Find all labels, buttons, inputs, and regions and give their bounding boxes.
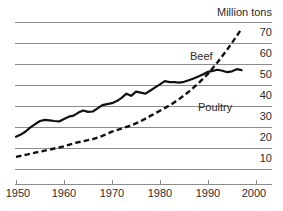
x-axis-tickmarks: [16, 180, 256, 184]
chart-container: Million tons 70 60 50 40 30 20 10 Beef P…: [0, 0, 283, 211]
x-tick-label-1960: 1960: [52, 187, 76, 199]
y-tick-label-70: 70: [260, 26, 272, 38]
meat-production-line-chart: Million tons 70 60 50 40 30 20 10 Beef P…: [0, 0, 283, 211]
unit-label: Million tons: [217, 6, 273, 18]
poultry-series-line: [16, 29, 242, 157]
y-tick-label-50: 50: [260, 68, 272, 80]
poultry-series-annotation: Poultry: [198, 101, 233, 113]
y-tick-label-60: 60: [260, 47, 272, 59]
beef-series-annotation: Beef: [190, 50, 214, 62]
x-tick-label-1970: 1970: [100, 187, 124, 199]
y-tick-label-20: 20: [260, 131, 272, 143]
y-axis-tick-labels: 70 60 50 40 30 20 10: [260, 26, 272, 164]
x-tick-label-1950: 1950: [6, 187, 30, 199]
y-tick-label-40: 40: [260, 89, 272, 101]
x-tick-label-1980: 1980: [148, 187, 172, 199]
series-group: [16, 29, 242, 157]
x-tick-label-1990: 1990: [196, 187, 220, 199]
x-tick-label-2000: 2000: [242, 187, 266, 199]
gridlines-group: [15, 23, 272, 170]
y-tick-label-10: 10: [260, 152, 272, 164]
x-axis-tick-labels: 1950 1960 1970 1980 1990 2000: [6, 187, 266, 199]
y-tick-label-30: 30: [260, 110, 272, 122]
